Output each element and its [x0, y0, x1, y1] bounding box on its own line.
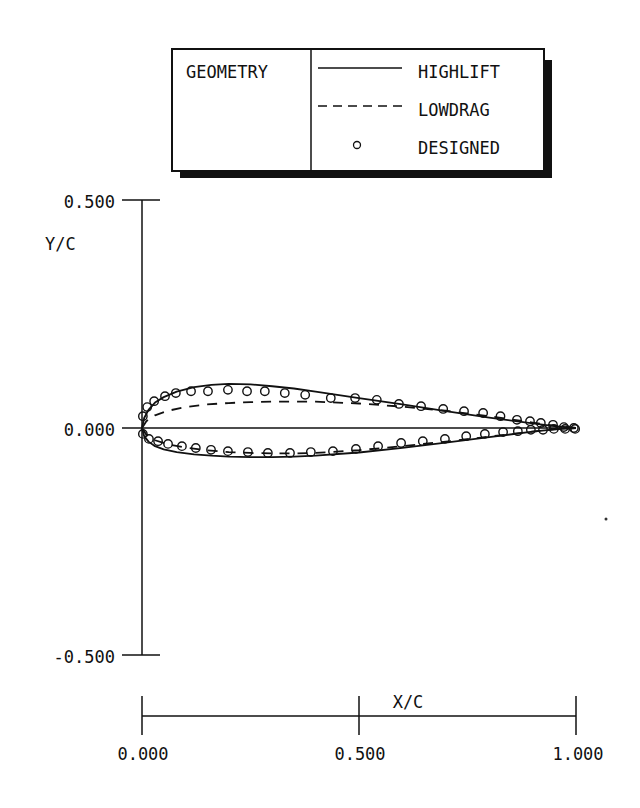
designed-point-marker — [204, 387, 212, 395]
y-tick-label-zero: 0.000 — [64, 420, 115, 440]
designed-point-marker — [281, 389, 289, 397]
y-axis-label: Y/C — [45, 234, 76, 254]
legend: GEOMETRY HIGHLIFT LOWDRAG DESIGNED — [172, 49, 552, 178]
designed-point-marker — [243, 387, 251, 395]
x-tick-label-0: 0.000 — [117, 744, 168, 764]
legend-title: GEOMETRY — [186, 62, 268, 82]
designed-point-marker — [352, 445, 360, 453]
designed-point-marker — [327, 394, 335, 402]
x-tick-label-half: 0.500 — [334, 744, 385, 764]
legend-label-highlift: HIGHLIFT — [418, 62, 500, 82]
y-axis: 0.500 0.000 -0.500 Y/C — [45, 192, 576, 667]
y-tick-label-bottom: -0.500 — [54, 647, 115, 667]
designed-point-marker — [224, 386, 232, 394]
designed-point-marker — [301, 391, 309, 399]
legend-label-lowdrag: LOWDRAG — [418, 100, 490, 120]
designed-point-marker — [261, 387, 269, 395]
stray-mark — [605, 518, 608, 521]
x-axis-label: X/C — [393, 692, 424, 712]
designed-point-marker — [419, 437, 427, 445]
x-axis: 0.000 0.500 1.000 X/C — [117, 692, 603, 764]
designed-point-marker — [164, 440, 172, 448]
y-tick-label-top: 0.500 — [64, 192, 115, 212]
designed-point-marker — [397, 439, 405, 447]
lowdrag-upper-curve — [142, 402, 576, 428]
airfoil-geometry-chart: GEOMETRY HIGHLIFT LOWDRAG DESIGNED 0.500… — [0, 0, 640, 808]
series-layer — [139, 384, 580, 457]
legend-label-designed: DESIGNED — [418, 138, 500, 158]
designed-point-marker — [439, 405, 447, 413]
highlift-upper-curve — [142, 384, 576, 428]
designed-point-marker — [526, 417, 534, 425]
x-tick-label-1: 1.000 — [552, 744, 603, 764]
